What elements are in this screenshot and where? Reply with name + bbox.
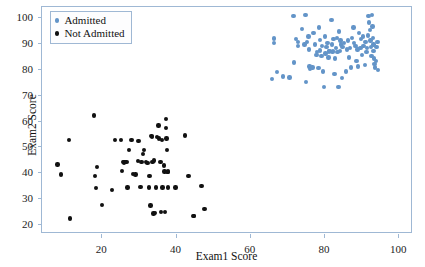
data-point (164, 136, 168, 140)
data-point (300, 27, 304, 31)
data-point (376, 68, 380, 72)
data-point (142, 148, 146, 152)
data-point (127, 148, 131, 152)
y-axis-tick-label: 80 (22, 63, 33, 75)
data-point (313, 42, 317, 46)
x-axis-tick (398, 234, 399, 238)
data-point (100, 203, 104, 207)
data-point (306, 34, 310, 38)
data-point (152, 158, 156, 162)
data-point (322, 85, 326, 89)
data-point (275, 70, 279, 74)
y-axis-tick-label: 70 (22, 89, 33, 101)
data-point (371, 49, 375, 53)
data-point (129, 138, 133, 142)
data-point (272, 36, 276, 40)
data-point (147, 185, 151, 189)
data-point (361, 34, 365, 38)
data-point (347, 55, 351, 59)
data-point (145, 161, 149, 165)
legend-item-admitted: Admitted (55, 14, 125, 27)
data-point (133, 172, 137, 176)
data-point (138, 185, 142, 189)
data-point (141, 152, 145, 156)
legend: Admitted Not Admitted (50, 11, 132, 44)
scatter-plot-figure: Exam2 Score Exam1 Score 2040608010020304… (0, 0, 425, 267)
data-point (153, 211, 157, 215)
data-point (356, 64, 360, 68)
data-point (93, 174, 97, 178)
data-point (333, 56, 337, 60)
data-point (124, 160, 128, 164)
x-axis-tick (324, 234, 325, 238)
data-point (332, 72, 336, 76)
y-axis-tick (38, 43, 42, 44)
data-point (95, 165, 99, 169)
data-point (147, 174, 151, 178)
data-point (344, 69, 348, 73)
legend-marker-not-admitted-icon (55, 31, 59, 35)
y-axis-tick (38, 198, 42, 199)
data-point (323, 34, 327, 38)
data-point (326, 55, 330, 59)
data-point (337, 29, 341, 33)
data-point (183, 133, 187, 137)
y-axis-tick (38, 17, 42, 18)
y-axis-tick (38, 121, 42, 122)
data-point (364, 50, 368, 54)
data-point (370, 13, 374, 17)
x-axis-tick (176, 234, 177, 238)
data-point (305, 40, 309, 44)
y-axis-tick (38, 224, 42, 225)
x-axis-tick-label: 80 (318, 243, 329, 255)
data-point (202, 207, 206, 211)
data-point (374, 59, 378, 63)
data-point (368, 28, 372, 32)
y-axis-tick-label: 40 (22, 166, 33, 178)
data-point (281, 74, 285, 78)
data-point (156, 123, 160, 127)
data-point (164, 117, 168, 121)
data-point (363, 63, 367, 67)
data-point (120, 169, 124, 173)
data-point (321, 69, 325, 73)
y-axis-tick-label: 60 (22, 115, 33, 127)
data-point (287, 75, 291, 79)
data-point (173, 185, 177, 189)
y-axis-tick-label: 90 (22, 37, 33, 49)
data-point (316, 66, 320, 70)
data-point (310, 65, 314, 69)
data-point (160, 138, 164, 142)
y-axis-tick-label: 30 (22, 192, 33, 204)
data-point (164, 126, 168, 130)
y-axis-tick (38, 172, 42, 173)
data-point (150, 135, 154, 139)
data-point (119, 138, 123, 142)
data-point (94, 186, 98, 190)
data-point (272, 41, 276, 45)
data-point (338, 49, 342, 53)
data-point (92, 113, 96, 117)
y-axis-tick-label: 100 (17, 11, 34, 23)
data-point (317, 25, 321, 29)
data-point (192, 214, 196, 218)
data-point (311, 31, 315, 35)
data-point (304, 80, 308, 84)
data-point (307, 47, 311, 51)
data-point (329, 18, 333, 22)
data-point (363, 40, 367, 44)
data-point (318, 48, 322, 52)
x-axis-tick-label: 100 (390, 243, 407, 255)
legend-marker-admitted-icon (55, 18, 59, 22)
data-point (165, 148, 169, 152)
data-point (270, 77, 274, 81)
y-axis-tick (38, 146, 42, 147)
data-point (296, 40, 300, 44)
data-point (375, 40, 379, 44)
data-point (136, 139, 140, 143)
data-point (303, 13, 307, 17)
data-point (68, 216, 72, 220)
x-axis-tick-label: 20 (96, 243, 107, 255)
data-point (166, 185, 170, 189)
y-axis-tick (38, 95, 42, 96)
